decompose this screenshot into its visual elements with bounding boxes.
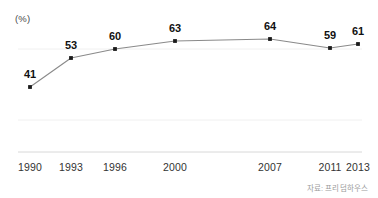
x-axis-tick-label: 1993 <box>59 161 83 173</box>
data-point-marker <box>113 47 117 51</box>
data-value-label: 64 <box>264 20 276 32</box>
series-line-path <box>30 39 358 87</box>
data-value-label: 59 <box>324 29 336 41</box>
x-axis-tick-label: 2000 <box>163 161 187 173</box>
chart-container: (%) 41536063645961 199019931996200020072… <box>0 0 378 198</box>
data-point-marker <box>268 37 272 41</box>
data-value-label: 53 <box>65 39 77 51</box>
x-axis-tick-label: 1990 <box>18 161 42 173</box>
data-value-label: 60 <box>109 30 121 42</box>
data-point-marker <box>328 46 332 50</box>
x-axis-tick-label: 2011 <box>319 161 342 173</box>
data-value-label: 61 <box>352 25 364 37</box>
x-axis-tick-label: 2007 <box>258 161 282 173</box>
source-attribution: 자료: 프리덤하우스 <box>307 182 368 193</box>
data-point-marker <box>28 85 32 89</box>
data-point-marker <box>69 56 73 60</box>
data-value-label: 41 <box>24 68 36 80</box>
data-point-marker <box>173 39 177 43</box>
x-axis-tick-label: 1996 <box>103 161 127 173</box>
data-point-marker <box>356 42 360 46</box>
data-value-label: 63 <box>169 22 181 34</box>
x-axis-tick-label: 2013 <box>346 161 370 173</box>
